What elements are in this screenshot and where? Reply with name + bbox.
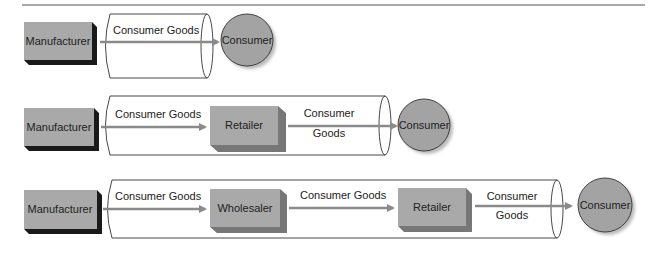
row-retailer-channel: Manufacturer Consumer Goods Retailer Con… [24, 96, 453, 155]
row-direct-channel: Manufacturer Consumer Goods Consumer [24, 14, 276, 78]
flow-label-line2: Goods [313, 127, 346, 139]
consumer-circle: Consumer [578, 178, 635, 235]
flow-label: Consumer Goods [115, 108, 202, 120]
flow-label: Consumer Goods [300, 189, 387, 201]
manufacturer-box: Manufacturer [24, 108, 99, 151]
retailer-box: Retailer [398, 188, 472, 232]
manufacturer-label: Manufacturer [28, 203, 93, 215]
consumer-label: Consumer [222, 34, 273, 46]
manufacturer-label: Manufacturer [27, 121, 92, 133]
consumer-label: Consumer [399, 119, 450, 131]
wholesaler-label: Wholesaler [217, 202, 272, 214]
wholesaler-box: Wholesaler [210, 189, 287, 233]
consumer-circle: Consumer [221, 14, 276, 69]
retailer-label: Retailer [413, 201, 451, 213]
row-wholesaler-retailer-channel: Manufacturer Consumer Goods Wholesaler C… [24, 178, 635, 238]
consumer-label: Consumer [580, 199, 631, 211]
consumer-circle: Consumer [398, 99, 453, 154]
retailer-label: Retailer [225, 119, 263, 131]
manufacturer-box: Manufacturer [24, 190, 102, 234]
retailer-box: Retailer [210, 106, 286, 152]
flow-label: Consumer Goods [115, 190, 202, 202]
flow-label: Consumer Goods [113, 24, 200, 36]
distribution-channels-diagram: Manufacturer Consumer Goods Consumer Man… [0, 0, 657, 257]
flow-label-line1: Consumer [304, 107, 355, 119]
flow-label-line1: Consumer [487, 190, 538, 202]
manufacturer-box: Manufacturer [24, 22, 97, 65]
manufacturer-label: Manufacturer [26, 35, 91, 47]
flow-label-line2: Goods [496, 209, 529, 221]
